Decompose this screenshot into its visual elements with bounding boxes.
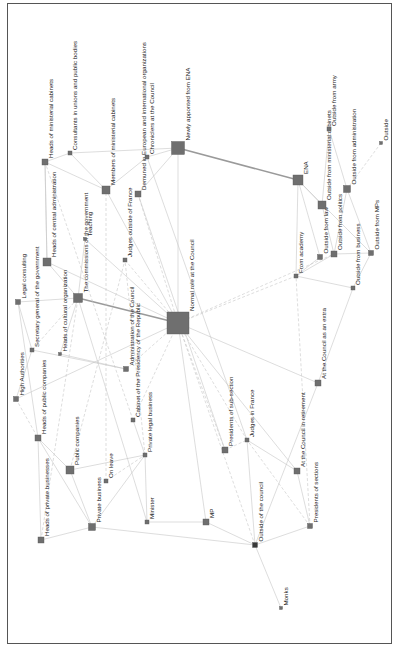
node-marker[interactable] (294, 468, 300, 474)
node-marker[interactable] (369, 251, 374, 256)
node-marker[interactable] (14, 397, 19, 402)
node-label: Outside from law (322, 207, 329, 254)
edge-n27-n0 (178, 323, 247, 440)
node[interactable]: Judges in France (245, 389, 255, 442)
node[interactable]: At the Council in retirement (294, 392, 306, 474)
node-marker[interactable] (124, 367, 129, 372)
node-label: Monks (282, 587, 289, 605)
node[interactable]: Presidents of sub-section (222, 376, 234, 453)
edge-n17-n3 (45, 162, 133, 420)
node[interactable]: On leave (104, 453, 114, 483)
node[interactable]: Secretary general of the government (30, 246, 40, 352)
edge-n6-n0 (138, 194, 178, 323)
node[interactable]: Consultants in unions and public bodies (68, 41, 78, 155)
node-label: Judges outside of France (126, 187, 133, 257)
node-marker[interactable] (222, 447, 228, 453)
node[interactable]: Demuned in European and international or… (135, 42, 147, 197)
node-marker[interactable] (253, 543, 258, 548)
node[interactable]: Heads of cultural organization (59, 269, 68, 355)
node-marker[interactable] (131, 418, 135, 422)
node-label: Presidents of sections (312, 462, 319, 523)
node-marker[interactable] (42, 159, 48, 165)
node-marker[interactable] (308, 524, 313, 529)
edge-n2-n1 (178, 148, 298, 180)
node-marker[interactable] (315, 380, 321, 386)
node-label: Outside of the council (257, 482, 264, 542)
node-marker[interactable] (351, 286, 355, 290)
node-marker[interactable] (145, 520, 149, 524)
node-marker[interactable] (327, 127, 331, 131)
node[interactable]: MP (203, 509, 215, 525)
edge-n4-n1 (70, 148, 178, 153)
node-marker[interactable] (35, 435, 41, 441)
node-marker[interactable] (172, 142, 185, 155)
node-marker[interactable] (245, 438, 249, 442)
node-label: Legal consulting (20, 253, 27, 298)
edge-n12-n13 (18, 302, 32, 350)
node-marker[interactable] (294, 274, 298, 278)
node-marker[interactable] (43, 258, 51, 266)
node-marker[interactable] (380, 142, 383, 145)
node[interactable]: Outside from law (318, 207, 329, 260)
node-marker[interactable] (318, 255, 323, 260)
node[interactable]: Outside (380, 119, 389, 145)
node-marker[interactable] (123, 258, 127, 262)
node[interactable]: Presidents of sections (308, 462, 319, 529)
node[interactable]: Monks (280, 587, 289, 609)
node-label: High Authorities (18, 352, 25, 395)
node[interactable]: Teaching (84, 211, 93, 240)
node[interactable]: ENA (293, 160, 309, 185)
node-marker[interactable] (66, 466, 74, 474)
node-marker[interactable] (280, 607, 283, 610)
node-label: At the Council as an extra (320, 308, 327, 379)
node-marker[interactable] (68, 151, 72, 155)
node-marker[interactable] (135, 191, 141, 197)
node[interactable]: Outside from politics (331, 194, 343, 257)
node[interactable]: Newly apponted from ENA (172, 67, 191, 155)
node[interactable]: Administration of the Council (124, 287, 135, 372)
node[interactable]: The commissions of the government (74, 192, 89, 302)
node-label: Chroniclers at the Council (148, 83, 155, 154)
node[interactable]: Outside from administration (344, 108, 357, 192)
node[interactable]: Legal consulting (16, 253, 27, 304)
node-marker[interactable] (145, 155, 149, 159)
node[interactable]: From academy (294, 231, 304, 278)
node-label: Cabinet of the Presidency of the Republi… (134, 303, 141, 417)
node-label: Heads of central administration (50, 171, 57, 257)
node-marker[interactable] (344, 186, 351, 193)
node-marker[interactable] (331, 251, 337, 257)
node-marker[interactable] (167, 312, 189, 334)
node-marker[interactable] (74, 294, 83, 303)
node[interactable]: Heads of central administration (43, 171, 57, 266)
node-label: Outside from politics (336, 194, 343, 250)
node[interactable]: At the Council as an extra (315, 308, 327, 386)
node-marker[interactable] (293, 175, 303, 185)
node[interactable]: Public companies (66, 417, 80, 475)
node-label: Minister (148, 497, 155, 519)
node[interactable]: Outside from MPs (369, 200, 380, 256)
node-label: Normal role at the Council (188, 239, 195, 311)
node-marker[interactable] (89, 524, 96, 531)
node-marker[interactable] (30, 348, 34, 352)
edge-n4-n5 (70, 153, 106, 190)
node-marker[interactable] (59, 353, 62, 356)
node-marker[interactable] (104, 479, 108, 483)
node-label: Heads of ministerial cabinets (47, 79, 54, 158)
network-diagram: Normal role at the CouncilNewly apponted… (0, 0, 402, 650)
node-marker[interactable] (38, 537, 44, 543)
node-marker[interactable] (143, 453, 147, 457)
node-marker[interactable] (102, 186, 110, 194)
node-marker[interactable] (16, 300, 21, 305)
node[interactable]: Heads of ministerial cabinets (42, 79, 54, 165)
node-label: Demuned in European and international or… (140, 42, 147, 190)
node[interactable]: High Authorities (14, 352, 25, 401)
node-marker[interactable] (203, 519, 209, 525)
node-marker[interactable] (318, 201, 326, 209)
edge-n12-n9 (18, 298, 78, 302)
node[interactable]: Members of ministerial cabinets (102, 98, 116, 194)
edge-n15-n18 (16, 399, 38, 438)
node-marker[interactable] (84, 238, 87, 241)
node-label: At the Council in retirement (299, 392, 306, 467)
node[interactable]: Outside from business (351, 223, 361, 290)
node-label: Outside from MPs (373, 200, 380, 250)
